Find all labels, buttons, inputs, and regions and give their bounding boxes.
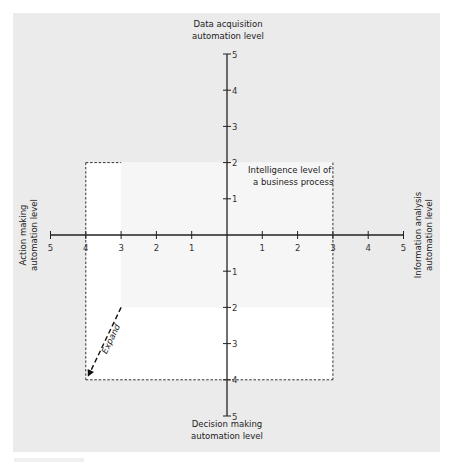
- y-tick-label: 3: [232, 122, 237, 132]
- intelligence-level-diagram: 11112222333344445555 Expand Intelligence…: [0, 0, 455, 467]
- bottom-axis-label-line-1: Decision making: [192, 419, 262, 429]
- right-axis-label-line-1: Information analysis: [413, 191, 423, 278]
- y-tick-label: 4: [232, 375, 237, 385]
- x-tick-label: 4: [365, 243, 370, 253]
- x-tick-label: 3: [330, 243, 335, 253]
- y-tick-label: 3: [232, 339, 237, 349]
- x-tick-label: 1: [189, 243, 194, 253]
- y-tick-label: 4: [232, 86, 237, 96]
- bottom-axis-label-line-2: automation level: [191, 431, 263, 441]
- top-axis-label-line-2: automation level: [192, 31, 264, 41]
- x-tick-label: 4: [83, 243, 88, 253]
- x-tick-label: 1: [260, 243, 265, 253]
- top-axis-label-line-1: Data acquisition: [193, 19, 262, 29]
- right-axis-label-line-2: automation level: [424, 199, 434, 271]
- x-tick-label: 2: [154, 243, 159, 253]
- x-tick-label: 5: [401, 243, 406, 253]
- y-tick-label: 1: [232, 267, 237, 277]
- area-title-line-1: Intelligence level of: [248, 165, 332, 175]
- y-tick-label: 2: [232, 303, 237, 313]
- x-tick-label: 2: [295, 243, 300, 253]
- left-axis-label-line-2: automation level: [29, 199, 39, 271]
- x-tick-label: 3: [118, 243, 123, 253]
- y-tick-label: 1: [232, 194, 237, 204]
- area-title-line-2: a business process: [253, 177, 334, 187]
- x-tick-label: 5: [48, 243, 53, 253]
- y-tick-label: 5: [232, 50, 237, 60]
- y-tick-label: 2: [232, 158, 237, 168]
- left-axis-label-line-1: Action making: [18, 205, 28, 266]
